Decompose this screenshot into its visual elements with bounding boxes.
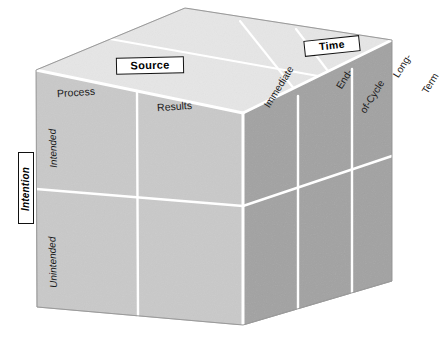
axis-label-intention: Intention (18, 152, 34, 224)
right-column-label-long-term-line2: Term (419, 69, 442, 97)
axis-label-source: Source (116, 56, 184, 74)
axis-label-intention-text: Intention (19, 153, 35, 225)
